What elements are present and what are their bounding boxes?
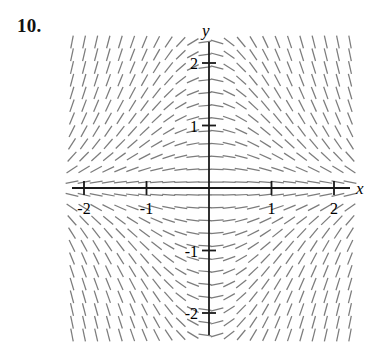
- slope-segment: [164, 279, 173, 288]
- slope-segment: [164, 292, 173, 302]
- slope-segment: [152, 266, 161, 276]
- slope-segment: [95, 48, 98, 61]
- slope-segment: [93, 253, 99, 265]
- slope-segment: [224, 306, 235, 313]
- slope-segment: [82, 265, 87, 277]
- slope-segment: [165, 330, 172, 341]
- slope-segment: [310, 228, 318, 238]
- slope-segment: [105, 240, 112, 251]
- slope-segment: [236, 292, 246, 301]
- slope-segment: [298, 253, 305, 264]
- slope-segment: [274, 266, 281, 277]
- slope-segment: [140, 114, 149, 124]
- slope-segment: [223, 232, 236, 235]
- slope-segment: [247, 154, 259, 158]
- slope-segment: [187, 104, 199, 108]
- slope-segment: [296, 153, 306, 161]
- slope-segment: [287, 74, 292, 86]
- slope-segment: [348, 278, 352, 290]
- slope-segment: [249, 62, 257, 72]
- slope-segment: [154, 329, 160, 341]
- slope-segment: [275, 316, 280, 328]
- slope-segment: [347, 138, 354, 149]
- slope-segment: [70, 100, 74, 112]
- slope-segment: [165, 304, 173, 314]
- slope-segment: [336, 48, 339, 61]
- slope-segment: [322, 228, 330, 238]
- slope-segment: [285, 229, 295, 238]
- slope-segment: [187, 39, 198, 46]
- slope-segment: [286, 100, 293, 111]
- slope-segment: [139, 154, 151, 160]
- slope-segment: [323, 100, 328, 112]
- slope-segment: [261, 254, 270, 263]
- slope-segment: [321, 152, 330, 161]
- slope-segment: [102, 167, 114, 173]
- slope-segment: [323, 240, 330, 251]
- slope-segment: [106, 278, 111, 290]
- slope-segment: [349, 36, 351, 49]
- slope-segment: [312, 303, 316, 315]
- slope-segment: [187, 282, 199, 287]
- slope-segment: [71, 48, 74, 61]
- slope-segment: [284, 167, 296, 172]
- slope-segment: [272, 217, 283, 223]
- slope-segment: [139, 217, 150, 223]
- slope-segment: [247, 182, 260, 183]
- slope-segment: [235, 155, 248, 158]
- slope-segment: [235, 195, 248, 196]
- slope-segment: [337, 329, 340, 342]
- slope-segment: [68, 152, 77, 162]
- slope-segment: [285, 140, 295, 149]
- slope-segment: [284, 205, 296, 210]
- slope-segment: [162, 206, 175, 209]
- slope-segment: [118, 329, 122, 341]
- slope-segment: [186, 156, 199, 158]
- slope-segment: [83, 329, 86, 342]
- slope-segment: [118, 303, 122, 315]
- slope-segment: [334, 139, 341, 150]
- slope-segment: [273, 127, 282, 136]
- slope-segment: [211, 321, 224, 324]
- slope-segment: [311, 100, 316, 112]
- slope-segment: [349, 303, 352, 316]
- slope-segment: [235, 182, 248, 183]
- slope-segment: [175, 102, 186, 109]
- slope-segment: [94, 291, 98, 303]
- slope-segment: [250, 49, 257, 60]
- slope-segment: [323, 113, 329, 125]
- slope-segment: [153, 317, 159, 328]
- slope-segment: [249, 101, 259, 110]
- slope-segment: [300, 36, 304, 48]
- slope-segment: [324, 291, 328, 303]
- slope-segment: [174, 169, 187, 171]
- slope-segment: [288, 329, 292, 341]
- slope-segment: [153, 279, 161, 289]
- slope-segment: [114, 167, 126, 172]
- slope-segment: [287, 291, 292, 303]
- slope-segment: [235, 168, 248, 170]
- slope-segment: [118, 87, 123, 99]
- slope-segment: [259, 182, 272, 183]
- slope-segment: [262, 62, 268, 73]
- slope-segment: [309, 152, 319, 160]
- slope-segment: [176, 293, 186, 301]
- slope-segment: [274, 291, 280, 303]
- slope-segment: [106, 316, 110, 328]
- slope-segment: [275, 49, 280, 61]
- slope-segment: [211, 53, 224, 56]
- slope-segment: [174, 195, 187, 196]
- slope-segment: [248, 255, 258, 263]
- slope-segment: [247, 168, 260, 171]
- slope-segment: [249, 75, 257, 85]
- slope-segment: [260, 127, 270, 135]
- y-axis-label: y: [200, 21, 210, 40]
- slope-segment: [118, 61, 122, 73]
- slope-segment: [237, 63, 246, 72]
- slope-segment: [128, 140, 138, 149]
- slope-segment: [287, 49, 291, 61]
- slope-segment: [312, 36, 315, 49]
- slope-segment: [273, 254, 281, 264]
- slope-segment: [128, 241, 137, 251]
- slope-segment: [91, 216, 101, 225]
